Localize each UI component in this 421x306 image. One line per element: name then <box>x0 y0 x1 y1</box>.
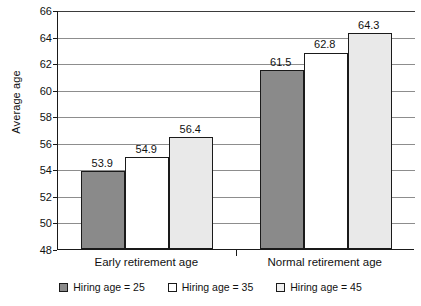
y-axis-tick-mark <box>53 250 57 251</box>
bar[interactable] <box>81 171 125 249</box>
y-axis-tick-mark <box>53 11 57 12</box>
y-axis-title: Average age <box>10 42 22 162</box>
legend-item[interactable]: Hiring age = 25 <box>59 281 145 293</box>
bar-value-label: 53.9 <box>92 157 113 169</box>
legend-swatch-white <box>168 283 177 292</box>
bar-value-label: 62.8 <box>314 38 335 50</box>
y-axis-tick-mark <box>53 144 57 145</box>
gridline <box>58 11 415 12</box>
category-separator-tick <box>236 250 237 256</box>
legend: Hiring age = 25Hiring age = 35Hiring age… <box>0 281 421 293</box>
legend-swatch-light-gray <box>276 283 285 292</box>
y-axis-tick-label: 54 <box>22 164 52 176</box>
category-axis-label: Early retirement age <box>94 256 198 268</box>
bar[interactable] <box>125 157 169 249</box>
y-axis-tick-label: 58 <box>22 111 52 123</box>
y-axis-tick-mark <box>53 38 57 39</box>
bar[interactable] <box>348 33 392 249</box>
bar-value-label: 61.5 <box>270 56 291 68</box>
legend-swatch-dark-gray <box>59 283 68 292</box>
bar-value-label: 56.4 <box>180 123 201 135</box>
legend-item-label: Hiring age = 45 <box>290 281 362 293</box>
y-axis-tick-label: 64 <box>22 32 52 44</box>
y-axis-tick-label: 52 <box>22 191 52 203</box>
bar-chart: Average age 48505254565860626466 Early r… <box>0 0 421 306</box>
legend-item-label: Hiring age = 35 <box>182 281 254 293</box>
legend-item[interactable]: Hiring age = 35 <box>168 281 254 293</box>
y-axis-tick-label: 66 <box>22 5 52 17</box>
y-axis-tick-mark <box>53 223 57 224</box>
category-axis-label: Normal retirement age <box>268 256 382 268</box>
plot-area <box>57 11 414 250</box>
y-axis-tick-mark <box>53 197 57 198</box>
y-axis-tick-label: 48 <box>22 244 52 256</box>
y-axis-tick-mark <box>53 64 57 65</box>
legend-item-label: Hiring age = 25 <box>73 281 145 293</box>
bar[interactable] <box>169 137 213 249</box>
bar[interactable] <box>304 53 348 250</box>
bar[interactable] <box>260 70 304 249</box>
y-axis-tick-mark <box>53 170 57 171</box>
y-axis-tick-label: 62 <box>22 58 52 70</box>
y-axis-tick-mark <box>53 117 57 118</box>
y-axis-tick-label: 50 <box>22 217 52 229</box>
bar-value-label: 54.9 <box>136 143 157 155</box>
legend-item[interactable]: Hiring age = 45 <box>276 281 362 293</box>
y-axis-tick-label: 56 <box>22 138 52 150</box>
y-axis-tick-mark <box>53 91 57 92</box>
y-axis-tick-label: 60 <box>22 85 52 97</box>
bar-value-label: 64.3 <box>358 19 379 31</box>
